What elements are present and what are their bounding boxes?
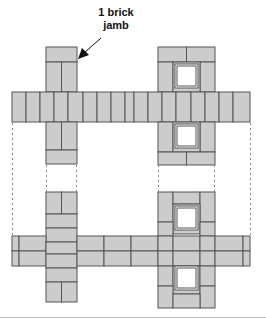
jamb-annotation-label: 1 brick jamb <box>86 6 146 32</box>
annotation-line-2: jamb <box>86 19 146 32</box>
window-opening-2 <box>175 124 198 148</box>
diagram-svg <box>0 0 266 323</box>
bottom-divider <box>0 317 266 318</box>
window-opening-4 <box>175 266 198 290</box>
left-jamb-middle <box>46 122 77 164</box>
annotation-line-1: 1 brick <box>86 6 146 19</box>
window-opening-1 <box>175 64 198 88</box>
jamb-arrow-icon <box>78 38 101 59</box>
window-opening-3 <box>175 206 198 230</box>
left-jamb-top <box>46 47 77 92</box>
brick-bond-diagram: 1 brick jamb <box>0 0 266 323</box>
upper-course-band <box>12 92 250 122</box>
left-jamb-bottom <box>46 268 77 302</box>
left-jamb-lower <box>46 192 77 242</box>
